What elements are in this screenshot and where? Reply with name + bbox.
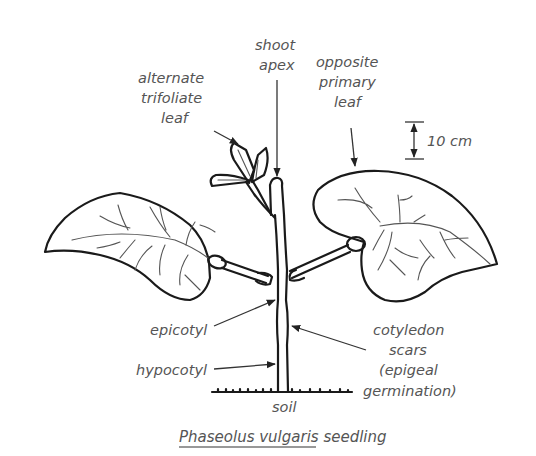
svg-text:germination): germination)	[363, 383, 457, 399]
label-alternate-trifoliate-leaf: alternate trifoliate leaf	[138, 70, 204, 126]
svg-text:trifoliate: trifoliate	[141, 90, 202, 106]
scale-bar-label: 10 cm	[427, 133, 472, 149]
svg-text:primary: primary	[318, 74, 376, 90]
svg-text:alternate: alternate	[138, 70, 204, 86]
svg-text:cotyledon: cotyledon	[373, 322, 444, 338]
soil-line	[212, 389, 352, 392]
svg-text:shoot: shoot	[255, 37, 296, 53]
right-petiole	[290, 237, 365, 281]
right-primary-leaf	[313, 171, 497, 301]
pointer-lines	[214, 80, 366, 369]
svg-text:leaf: leaf	[161, 110, 190, 126]
label-opposite-primary-leaf: opposite primary leaf	[316, 54, 378, 110]
left-primary-leaf	[45, 193, 215, 300]
left-petiole	[206, 253, 272, 284]
svg-text:opposite: opposite	[316, 54, 378, 70]
label-epicotyl: epicotyl	[150, 322, 207, 338]
svg-text:leaf: leaf	[334, 94, 363, 110]
seedling-diagram: 10 cm shoot apex alternate trifoliate le…	[0, 0, 536, 456]
svg-text:apex: apex	[259, 57, 295, 73]
scale-bar: 10 cm	[405, 122, 472, 159]
svg-text:epicotyl: epicotyl	[150, 322, 207, 338]
svg-text:hypocotyl: hypocotyl	[136, 362, 207, 378]
caption-suffix: seedling	[319, 428, 387, 446]
figure-caption: Phaseolus vulgaris seedling	[179, 428, 387, 447]
label-cotyledon-scars: cotyledon scars (epigeal germination)	[363, 322, 457, 399]
label-soil: soil	[272, 399, 296, 415]
svg-text:scars: scars	[389, 342, 427, 358]
svg-text:soil: soil	[272, 399, 296, 415]
caption-species: Phaseolus vulgaris	[179, 428, 319, 446]
trifoliate-leaf	[211, 143, 268, 186]
svg-text:(epigeal: (epigeal	[379, 362, 438, 378]
label-shoot-apex: shoot apex	[255, 37, 296, 73]
svg-text:Phaseolus vulgaris seedling: Phaseolus vulgaris seedling	[179, 428, 387, 446]
label-hypocotyl: hypocotyl	[136, 362, 207, 378]
